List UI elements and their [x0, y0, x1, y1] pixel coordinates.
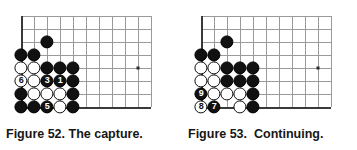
figure-52-caption: Figure 52. The capture.	[0, 127, 186, 141]
stone-black-numbered-1[interactable]: 1	[53, 74, 66, 87]
go-board-52: 6315	[0, 0, 180, 126]
stone-black[interactable]	[66, 100, 79, 113]
stone-move-number: 7	[212, 103, 217, 112]
grid-line-vertical	[266, 16, 267, 107]
grid-line-vertical	[318, 16, 319, 107]
stone-black[interactable]	[207, 48, 220, 61]
stone-black[interactable]	[66, 87, 79, 100]
stone-black[interactable]	[246, 100, 259, 113]
stone-black[interactable]	[246, 87, 259, 100]
grid-line-vertical	[151, 16, 152, 107]
figure-53-caption: Figure 53. Continuing.	[180, 127, 357, 141]
stone-black-numbered-5[interactable]: 5	[40, 100, 53, 113]
grid-line-vertical	[125, 16, 126, 107]
stone-black[interactable]	[246, 74, 259, 87]
grid-line-vertical	[138, 16, 139, 107]
stone-move-number: 3	[45, 77, 50, 86]
go-board-53: 987	[180, 0, 357, 126]
stone-move-number: 5	[45, 103, 50, 112]
stone-white[interactable]	[53, 100, 66, 113]
stone-white[interactable]	[40, 87, 53, 100]
stone-black[interactable]	[220, 74, 233, 87]
stone-black[interactable]	[66, 74, 79, 87]
stone-move-number: 8	[199, 103, 204, 112]
stone-black[interactable]	[27, 100, 40, 113]
stone-black[interactable]	[233, 74, 246, 87]
stone-black-numbered-3[interactable]: 3	[40, 74, 53, 87]
stone-white[interactable]	[27, 74, 40, 87]
stone-white[interactable]	[27, 61, 40, 74]
stone-white[interactable]	[14, 61, 27, 74]
stone-white[interactable]	[207, 87, 220, 100]
stone-black[interactable]	[246, 61, 259, 74]
stone-white[interactable]	[27, 87, 40, 100]
stone-white[interactable]	[207, 61, 220, 74]
stone-move-number: 1	[58, 77, 63, 86]
grid-line-vertical	[279, 16, 280, 107]
stone-black[interactable]	[220, 35, 233, 48]
star-point	[317, 67, 320, 70]
stone-black[interactable]	[14, 48, 27, 61]
grid-line-vertical	[331, 16, 332, 107]
stone-black[interactable]	[66, 61, 79, 74]
board-edge-line-horizontal	[201, 107, 331, 109]
stone-white[interactable]	[53, 87, 66, 100]
figure-53: 987 Figure 53. Continuing.	[180, 0, 357, 150]
stone-white-numbered-6[interactable]: 6	[14, 74, 27, 87]
stone-black[interactable]	[40, 61, 53, 74]
stone-black[interactable]	[27, 48, 40, 61]
grid-line-vertical	[305, 16, 306, 107]
grid-line-vertical	[292, 16, 293, 107]
stone-white[interactable]	[194, 74, 207, 87]
stone-white[interactable]	[207, 74, 220, 87]
grid-line-vertical	[112, 16, 113, 107]
go-diagram-page: 6315 Figure 52. The capture. 987 Figure …	[0, 0, 357, 150]
grid-line-vertical	[99, 16, 100, 107]
stone-black[interactable]	[220, 61, 233, 74]
stone-white[interactable]	[233, 87, 246, 100]
stone-white[interactable]	[233, 100, 246, 113]
star-point	[137, 67, 140, 70]
stone-black[interactable]	[233, 61, 246, 74]
stone-black[interactable]	[53, 61, 66, 74]
stone-white[interactable]	[220, 87, 233, 100]
stone-black[interactable]	[40, 35, 53, 48]
stone-black[interactable]	[14, 100, 27, 113]
stone-move-number: 6	[19, 77, 24, 86]
stone-white-numbered-8[interactable]: 8	[194, 100, 207, 113]
stone-black-numbered-9[interactable]: 9	[194, 87, 207, 100]
stone-black-numbered-7[interactable]: 7	[207, 100, 220, 113]
stone-black[interactable]	[14, 87, 27, 100]
grid-line-vertical	[86, 16, 87, 107]
stone-black[interactable]	[194, 48, 207, 61]
stone-move-number: 9	[199, 90, 204, 99]
stone-white[interactable]	[194, 61, 207, 74]
figure-52: 6315 Figure 52. The capture.	[0, 0, 180, 150]
